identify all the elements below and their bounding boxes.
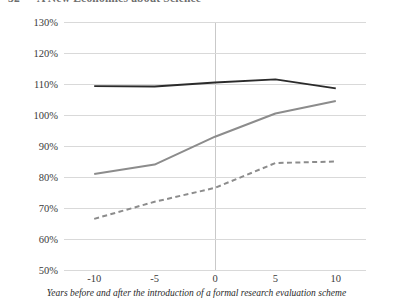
x-axis-tick-label: 0 — [212, 273, 217, 284]
gridline — [64, 270, 366, 271]
running-header: 32A New Economics about Science — [0, 0, 393, 9]
y-axis-tick-label: 110% — [12, 79, 58, 90]
page-number: 32 — [8, 0, 20, 4]
x-axis-tick-label: 5 — [273, 273, 278, 284]
y-axis-tick-label: 80% — [12, 172, 58, 183]
y-axis-tick-label: 60% — [12, 234, 58, 245]
line-chart: 130%120%110%100%90%80%70%60%50% -10-5051… — [0, 10, 393, 294]
y-axis-tick-label: 120% — [12, 48, 58, 59]
x-axis-tick-label: -5 — [150, 273, 159, 284]
running-title: A New Economics about Science — [37, 0, 201, 4]
series-dark-solid — [94, 79, 336, 88]
series-lines — [64, 22, 366, 270]
x-axis-tick-label: 10 — [331, 273, 342, 284]
series-grey-dashed — [94, 162, 336, 219]
y-axis-tick-label: 50% — [12, 265, 58, 276]
x-axis-title: Years before and after the introduction … — [0, 288, 393, 298]
y-axis-tick-label: 70% — [12, 203, 58, 214]
plot-area — [64, 22, 366, 270]
y-axis-tick-labels: 130%120%110%100%90%80%70%60%50% — [8, 22, 58, 270]
y-axis-tick-label: 90% — [12, 141, 58, 152]
x-axis-tick-labels: -10-50510 — [64, 273, 366, 289]
y-axis-tick-label: 100% — [12, 110, 58, 121]
x-axis-tick-label: -10 — [87, 273, 101, 284]
y-axis-tick-label: 130% — [12, 17, 58, 28]
